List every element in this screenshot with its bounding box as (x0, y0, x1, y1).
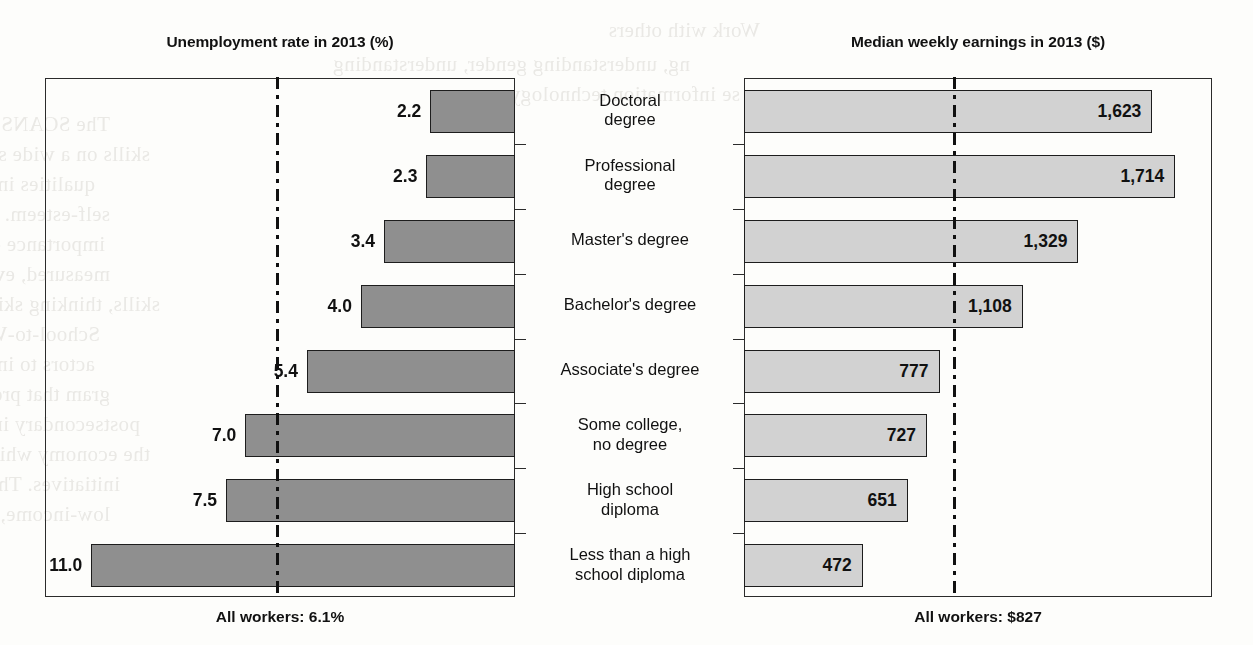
right-chart-title: Median weekly earnings in 2013 ($) (742, 33, 1214, 51)
category-label-text: Master's degree (571, 230, 689, 250)
bar-row: 7.5 (46, 468, 514, 533)
bar-value-label: 1,108 (745, 285, 1012, 328)
bar-row: 7.0 (46, 403, 514, 468)
bar-unemployment (91, 544, 515, 587)
bar-row: 3.4 (46, 209, 514, 274)
bar-row: 2.2 (46, 79, 514, 144)
category-label-text: Bachelor's degree (564, 295, 696, 315)
bar-value-label: 4.0 (272, 285, 352, 328)
category-label-text: Some college,no degree (578, 415, 683, 454)
left-plot-area: 2.22.33.44.05.47.07.511.0 (45, 78, 515, 597)
bar-value-label: 11.0 (2, 544, 82, 587)
category-label: Associate's degree (516, 338, 744, 403)
category-label: Doctoraldegree (516, 78, 744, 143)
all-workers-reference-line (953, 77, 956, 598)
bar-row: 651 (745, 468, 1211, 533)
bar-unemployment (384, 220, 515, 263)
category-label: Master's degree (516, 208, 744, 273)
category-label-text: Less than a highschool diploma (569, 545, 690, 584)
bar-unemployment (226, 479, 515, 522)
bar-unemployment (245, 414, 515, 457)
category-label: High schooldiploma (516, 467, 744, 532)
double-bar-chart-figure: Unemployment rate in 2013 (%) Median wee… (0, 0, 1253, 645)
bar-value-label: 3.4 (295, 220, 375, 263)
bar-value-label: 2.2 (341, 90, 421, 133)
bar-value-label: 2.3 (337, 155, 417, 198)
bar-row: 1,329 (745, 209, 1211, 274)
bar-row: 5.4 (46, 339, 514, 404)
bar-value-label: 727 (745, 414, 916, 457)
bar-unemployment (307, 350, 515, 393)
left-chart-title: Unemployment rate in 2013 (%) (44, 33, 516, 51)
bar-row: 1,108 (745, 274, 1211, 339)
category-label-text: High schooldiploma (587, 480, 673, 519)
category-label: Some college,no degree (516, 402, 744, 467)
bar-value-label: 5.4 (218, 350, 298, 393)
bar-row: 2.3 (46, 144, 514, 209)
bar-value-label: 472 (745, 544, 852, 587)
bar-row: 11.0 (46, 533, 514, 598)
bar-value-label: 651 (745, 479, 897, 522)
all-workers-reference-line (276, 77, 279, 598)
bar-value-label: 1,329 (745, 220, 1067, 263)
category-label-text: Doctoraldegree (599, 91, 660, 130)
bar-row: 472 (745, 533, 1211, 598)
bar-value-label: 7.5 (137, 479, 217, 522)
category-label: Bachelor's degree (516, 273, 744, 338)
category-label-column: DoctoraldegreeProfessionaldegreeMaster's… (516, 78, 744, 597)
bar-value-label: 7.0 (156, 414, 236, 457)
bar-unemployment (426, 155, 515, 198)
category-label: Less than a highschool diploma (516, 532, 744, 597)
bar-row: 777 (745, 339, 1211, 404)
category-label-text: Associate's degree (561, 360, 700, 380)
category-label-text: Professionaldegree (585, 156, 676, 195)
left-reference-footer: All workers: 6.1% (45, 608, 515, 626)
bar-row: 4.0 (46, 274, 514, 339)
bar-unemployment (361, 285, 515, 328)
bar-unemployment (430, 90, 515, 133)
bar-row: 1,714 (745, 144, 1211, 209)
right-reference-footer: All workers: $827 (744, 608, 1212, 626)
bar-value-label: 1,623 (745, 90, 1141, 133)
right-plot-area: 1,6231,7141,3291,108777727651472 (744, 78, 1212, 597)
bar-row: 727 (745, 403, 1211, 468)
bar-row: 1,623 (745, 79, 1211, 144)
category-label: Professionaldegree (516, 143, 744, 208)
bar-value-label: 777 (745, 350, 929, 393)
